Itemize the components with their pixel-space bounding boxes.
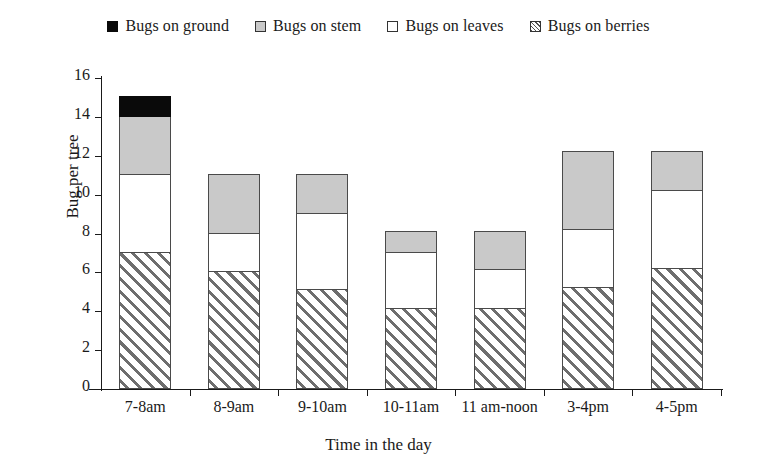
x-axis-tick-mark — [278, 389, 279, 396]
x-axis-tick-mark — [721, 389, 722, 396]
y-tick-label: 8 — [82, 223, 90, 239]
legend-label: Bugs on ground — [125, 18, 229, 34]
legend-item-bugs-on-ground: Bugs on ground — [107, 18, 229, 34]
y-tick-mark — [95, 156, 101, 157]
plot-area: 0246810121416 — [101, 78, 721, 389]
bar-segment-stem — [208, 174, 260, 233]
bar-segment-stem — [119, 116, 171, 175]
y-tick-label: 14 — [74, 106, 90, 122]
x-axis-tick-mark — [632, 389, 633, 396]
bar-segment-berries — [474, 308, 526, 389]
bug-per-tree-stacked-bar-chart: Bugs on ground Bugs on stem Bugs on leav… — [0, 0, 757, 476]
x-axis-tick-mark — [544, 389, 545, 396]
bar-segment-leaves — [296, 213, 348, 290]
bar-segment-leaves — [119, 174, 171, 253]
bar-segment-berries — [296, 289, 348, 389]
y-tick-label: 2 — [82, 339, 90, 355]
legend-item-bugs-on-stem: Bugs on stem — [255, 18, 361, 34]
bar-segment-ground — [119, 96, 171, 116]
legend-item-bugs-on-leaves: Bugs on leaves — [387, 18, 503, 34]
y-tick-label: 6 — [82, 261, 90, 277]
y-tick-mark — [95, 117, 101, 118]
bar-segment-stem — [651, 151, 703, 191]
y-tick-mark — [95, 234, 101, 235]
x-axis-tick-mark — [367, 389, 368, 396]
bar-segment-stem — [296, 174, 348, 214]
bar-stack — [562, 78, 614, 389]
y-tick-label: 12 — [74, 145, 90, 161]
x-axis-tick-mark — [190, 389, 191, 396]
y-tick-label: 4 — [82, 300, 90, 316]
bar-segment-leaves — [385, 252, 437, 309]
y-tick-label: 10 — [74, 184, 90, 200]
legend-item-bugs-on-berries: Bugs on berries — [530, 18, 650, 34]
y-tick-label: 0 — [82, 378, 90, 394]
legend-label: Bugs on berries — [548, 18, 650, 34]
x-axis-tick-mark — [455, 389, 456, 396]
bar-stack — [385, 78, 437, 389]
y-tick-mark — [95, 272, 101, 273]
bar-stack — [119, 78, 171, 389]
bar-stack — [296, 78, 348, 389]
bar-segment-berries — [208, 271, 260, 389]
bar-segment-stem — [385, 231, 437, 253]
chart-legend: Bugs on ground Bugs on stem Bugs on leav… — [0, 18, 757, 34]
legend-swatch-white-square-icon — [387, 21, 398, 32]
y-tick-mark — [95, 311, 101, 312]
legend-swatch-black-square-icon — [107, 21, 118, 32]
legend-label: Bugs on stem — [273, 18, 361, 34]
bar-stack — [208, 78, 260, 389]
y-tick-mark — [95, 350, 101, 351]
y-tick-mark — [95, 389, 101, 390]
bar-segment-berries — [385, 308, 437, 389]
bar-segment-leaves — [208, 233, 260, 273]
x-axis-title: Time in the day — [0, 436, 757, 453]
bar-segment-stem — [474, 231, 526, 271]
y-tick-label: 16 — [74, 67, 90, 83]
bar-segment-berries — [119, 252, 171, 389]
bar-segment-leaves — [651, 190, 703, 269]
legend-swatch-gray-square-icon — [255, 21, 266, 32]
bar-segment-leaves — [474, 269, 526, 309]
x-axis-category-label: 4-5pm — [617, 399, 737, 415]
y-tick-mark — [95, 195, 101, 196]
bar-segment-leaves — [562, 229, 614, 288]
x-axis-line — [89, 389, 723, 390]
bar-stack — [474, 78, 526, 389]
legend-swatch-hatched-square-icon — [530, 21, 541, 32]
legend-label: Bugs on leaves — [405, 18, 503, 34]
y-tick-mark — [95, 78, 101, 79]
bar-stack — [651, 78, 703, 389]
bar-segment-berries — [651, 268, 703, 390]
bar-segment-stem — [562, 151, 614, 230]
bar-segment-berries — [562, 287, 614, 389]
